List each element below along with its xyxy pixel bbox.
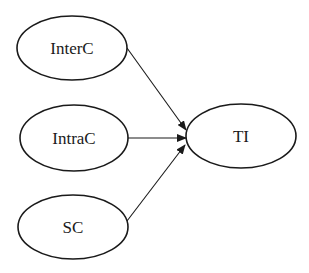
arrow-sc-to-ti <box>127 145 185 221</box>
path-diagram: InterCIntraCSCTI <box>0 0 309 273</box>
node-label: InterC <box>50 39 93 58</box>
node-ti: TI <box>186 104 296 168</box>
node-label: IntraC <box>52 129 95 148</box>
node-label: TI <box>233 127 249 146</box>
arrow-interc-to-ti <box>127 48 186 130</box>
node-interc: InterC <box>17 16 127 80</box>
edges-group <box>127 48 186 221</box>
node-sc: SC <box>18 195 128 259</box>
node-label: SC <box>63 218 84 237</box>
node-intrac: IntraC <box>20 105 128 171</box>
